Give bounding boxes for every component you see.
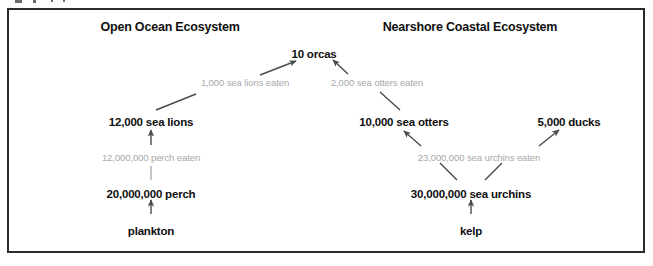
figure-border — [7, 8, 645, 253]
flux-label-sea-urchins-eaten: 23,000,000 sea urchins eaten — [416, 152, 542, 163]
node-ducks: 5,000 ducks — [537, 116, 600, 128]
clipped-text-artifact — [7, 0, 77, 4]
node-perch: 20,000,000 perch — [107, 188, 196, 200]
node-sea-urchins: 30,000,000 sea urchins — [411, 188, 531, 200]
header-nearshore-coastal-ecosystem: Nearshore Coastal Ecosystem — [383, 20, 558, 34]
node-plankton: plankton — [128, 225, 174, 237]
node-orcas: 10 orcas — [291, 48, 336, 60]
flux-label-perch-eaten: 12,000,000 perch eaten — [100, 152, 202, 163]
ecosystem-energy-flow-figure: Open Ocean Ecosystem Nearshore Coastal E… — [0, 0, 653, 266]
node-sea-lions: 12,000 sea lions — [109, 116, 193, 128]
node-kelp: kelp — [460, 225, 482, 237]
flux-label-sea-otters-eaten: 2,000 sea otters eaten — [329, 77, 425, 88]
header-open-ocean-ecosystem: Open Ocean Ecosystem — [100, 20, 239, 34]
flux-label-sea-lions-eaten: 1,000 sea lions eaten — [199, 77, 291, 88]
node-sea-otters: 10,000 sea otters — [359, 116, 448, 128]
